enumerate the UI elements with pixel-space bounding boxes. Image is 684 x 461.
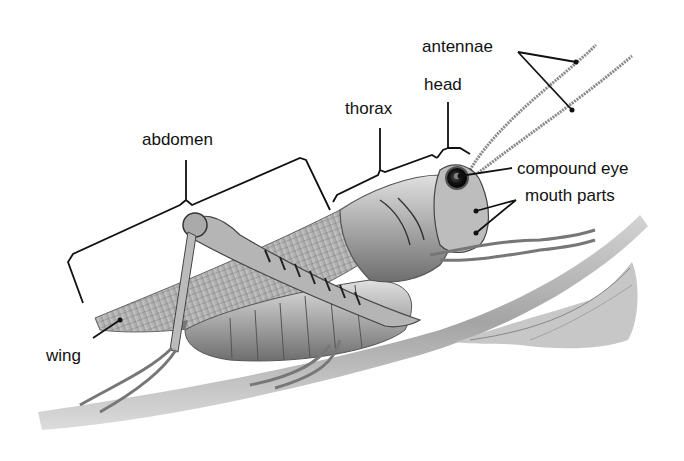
label-antennae: antennae [422, 38, 493, 55]
label-mouth-parts: mouth parts [525, 187, 615, 204]
label-wing: wing [46, 347, 81, 364]
label-abdomen: abdomen [142, 131, 213, 148]
grasshopper-illustration [0, 0, 684, 461]
antennae-illustration [470, 45, 632, 173]
label-compound-eye: compound eye [517, 160, 629, 177]
label-thorax: thorax [345, 100, 392, 117]
grasshopper-diagram: antennae head thorax abdomen compound ey… [0, 0, 684, 461]
label-head: head [424, 76, 462, 93]
